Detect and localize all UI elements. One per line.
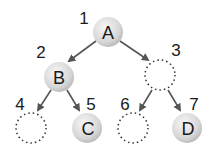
tree-diagram: A 1 B 2 3 4 C 5 6 D 7	[0, 0, 214, 151]
node-6: 6	[118, 95, 148, 143]
node-label: C	[82, 119, 95, 139]
node-7: D 7	[172, 95, 202, 143]
edge-2-4	[38, 90, 51, 110]
node-index: 4	[15, 95, 24, 114]
node-1: A 1	[79, 9, 123, 47]
edge-1-3	[120, 41, 148, 60]
node-index: 5	[86, 95, 95, 114]
node-index: 2	[36, 43, 45, 62]
edge-3-6	[140, 90, 152, 110]
node-index: 6	[120, 95, 129, 114]
node-index: 3	[171, 41, 180, 60]
node-2: B 2	[36, 43, 74, 92]
node-label: A	[102, 23, 114, 43]
node-4: 4	[15, 95, 46, 143]
node-index: 1	[79, 9, 88, 28]
edge-1-2	[69, 41, 96, 61]
node-label: B	[53, 68, 65, 88]
node-index: 7	[189, 95, 198, 114]
edge-3-7	[168, 90, 180, 110]
node-5: C 5	[72, 95, 102, 143]
edge-2-5	[67, 90, 79, 110]
node-label: D	[182, 119, 195, 139]
node-3: 3	[145, 41, 181, 90]
